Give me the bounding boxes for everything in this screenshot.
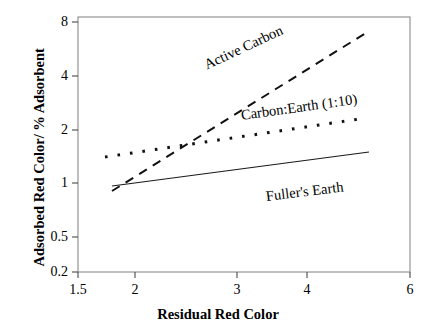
y-tick-label-8: 8 <box>34 15 68 29</box>
x-axis-title: Residual Red Color <box>0 307 436 322</box>
x-tick-label-6: 6 <box>390 283 430 297</box>
x-tick-label-3: 3 <box>217 283 257 297</box>
x-tick-label-2: 2 <box>115 283 155 297</box>
chart-figure: 8 4 2 1 0.5 0.2 1.5 2 3 4 6 Adsorbed Red… <box>0 0 436 334</box>
y-axis-ticks <box>72 22 78 272</box>
y-axis-title: Adsorbed Red Color/ % Adsorbent <box>32 32 47 282</box>
x-tick-label-1-5: 1.5 <box>58 283 98 297</box>
x-axis-ticks <box>78 272 410 278</box>
x-tick-label-4: 4 <box>287 283 327 297</box>
